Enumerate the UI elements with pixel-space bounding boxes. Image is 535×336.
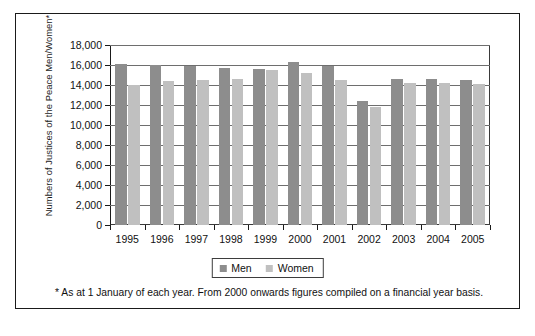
bar-women-1998 — [232, 79, 244, 226]
bar-women-2002 — [370, 107, 382, 225]
bar-men-2002 — [357, 101, 369, 225]
bar-women-2000 — [301, 73, 313, 225]
bar-group — [248, 45, 283, 225]
x-axis-label-2005: 2005 — [461, 233, 484, 245]
bar-women-2004 — [439, 83, 451, 225]
bars-layer — [110, 45, 490, 225]
x-axis-tick — [317, 225, 318, 230]
x-axis-label-1997: 1997 — [185, 233, 208, 245]
y-axis-tick-label: 2,000 — [76, 199, 102, 211]
y-axis-tick-label: 0 — [96, 219, 102, 231]
y-axis-tick-label: 18,000 — [70, 39, 102, 51]
legend-item-men: Men — [219, 262, 251, 274]
bar-men-1998 — [219, 68, 231, 226]
legend-swatch-men-icon — [219, 265, 226, 272]
bar-women-2003 — [404, 83, 416, 225]
bar-women-2001 — [335, 80, 347, 225]
x-axis-tick — [283, 225, 284, 230]
x-axis-tick — [145, 225, 146, 230]
legend-swatch-women-icon — [266, 265, 273, 272]
y-axis-tick-label: 12,000 — [70, 99, 102, 111]
x-axis-tick — [490, 225, 491, 230]
x-axis-label-1998: 1998 — [219, 233, 242, 245]
chart-footnote: * As at 1 January of each year. From 200… — [55, 286, 485, 300]
x-axis-label-2003: 2003 — [392, 233, 415, 245]
x-axis-label-2002: 2002 — [357, 233, 380, 245]
bar-men-2005 — [460, 80, 472, 225]
x-axis-tick — [110, 225, 111, 230]
x-axis-label-1996: 1996 — [150, 233, 173, 245]
x-axis-label-1995: 1995 — [116, 233, 139, 245]
x-axis-tick — [386, 225, 387, 230]
x-axis-label-2001: 2001 — [323, 233, 346, 245]
bar-group — [455, 45, 490, 225]
bar-men-2001 — [322, 66, 334, 225]
y-axis-tick-label: 4,000 — [76, 179, 102, 191]
x-axis-label-2000: 2000 — [288, 233, 311, 245]
bar-women-1999 — [266, 70, 278, 225]
x-axis-tick — [352, 225, 353, 230]
bar-group — [421, 45, 456, 225]
x-axis-label-1999: 1999 — [254, 233, 277, 245]
chart-legend: Men Women — [211, 258, 323, 278]
bar-men-2003 — [391, 79, 403, 225]
plot-wrapper: 02,0004,0006,0008,00010,00012,00014,0001… — [110, 45, 490, 225]
bar-men-2000 — [288, 62, 300, 225]
bar-group — [352, 45, 387, 225]
bar-men-1996 — [150, 65, 162, 225]
y-axis-tick-label: 16,000 — [70, 59, 102, 71]
bar-group — [110, 45, 145, 225]
y-axis-tick-label: 10,000 — [70, 119, 102, 131]
y-axis-tick-label: 8,000 — [76, 139, 102, 151]
bar-group — [317, 45, 352, 225]
x-axis-tick — [179, 225, 180, 230]
y-axis-tick-label: 6,000 — [76, 159, 102, 171]
x-axis-tick — [248, 225, 249, 230]
bar-men-1997 — [184, 66, 196, 226]
bar-women-2005 — [473, 84, 485, 226]
bar-group — [386, 45, 421, 225]
y-axis-title: Numbers of Justices of the Peace Men/Wom… — [43, 6, 54, 226]
bar-men-2004 — [426, 79, 438, 226]
x-axis-tick — [455, 225, 456, 230]
y-axis-tick-label: 14,000 — [70, 79, 102, 91]
bar-women-1997 — [197, 80, 209, 225]
legend-item-women: Women — [266, 262, 314, 274]
bar-women-1995 — [128, 85, 140, 226]
legend-label-men: Men — [231, 262, 251, 274]
bar-group — [214, 45, 249, 225]
x-axis-label-2004: 2004 — [426, 233, 449, 245]
bar-men-1995 — [115, 64, 127, 225]
bar-group — [145, 45, 180, 225]
x-axis-tick — [421, 225, 422, 230]
chart-figure-frame: Numbers of Justices of the Peace Men/Wom… — [15, 13, 520, 309]
x-axis-tick — [214, 225, 215, 230]
bar-women-1996 — [163, 81, 175, 225]
bar-men-1999 — [253, 69, 265, 225]
bar-group — [283, 45, 318, 225]
legend-label-women: Women — [278, 262, 314, 274]
bar-group — [179, 45, 214, 225]
